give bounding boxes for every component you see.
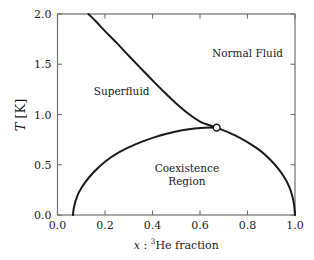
x-axis-label: x : 3He fraction bbox=[134, 239, 219, 252]
region-label-line: Coexistence bbox=[155, 162, 220, 174]
critical-point-markers bbox=[213, 124, 220, 131]
region-label-line: Superfluid bbox=[94, 86, 150, 98]
y-axis-units: [K] bbox=[13, 98, 28, 122]
x-tick-label: 0.2 bbox=[96, 219, 114, 232]
y-tick-label: 0.5 bbox=[0, 158, 52, 171]
y-axis-label: T [K] bbox=[13, 98, 28, 131]
x-tick-label: 0.6 bbox=[191, 219, 209, 232]
y-tick-label: 2.0 bbox=[0, 8, 52, 21]
x-axis-separator: : bbox=[140, 239, 151, 252]
phase-diagram-figure: 0.00.20.40.60.81.0 0.00.51.01.52.0 Super… bbox=[0, 0, 314, 260]
region-label-normal-fluid: Normal Fluid bbox=[212, 48, 283, 61]
region-label-line: Region bbox=[168, 175, 205, 187]
region-label-line: Normal Fluid bbox=[212, 48, 283, 60]
tricritical-point-marker bbox=[213, 124, 220, 131]
x-tick-label: 0.4 bbox=[144, 219, 162, 232]
y-tick-label: 1.5 bbox=[0, 58, 52, 71]
region-label-coexistence: CoexistenceRegion bbox=[155, 162, 220, 188]
curve-lambda-line bbox=[88, 14, 216, 128]
curve-coexistence-right-branch bbox=[217, 128, 295, 215]
y-tick-label: 0.0 bbox=[0, 209, 52, 222]
x-tick-label: 0.8 bbox=[239, 219, 257, 232]
x-tick-label: 1.0 bbox=[286, 219, 304, 232]
y-axis-symbol: T bbox=[13, 122, 28, 131]
x-axis-suffix: He fraction bbox=[155, 239, 218, 252]
region-label-superfluid: Superfluid bbox=[94, 86, 150, 99]
